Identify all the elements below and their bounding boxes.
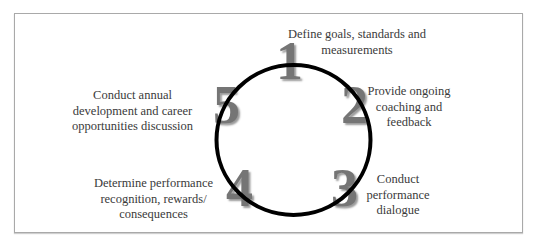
step-5-line-3: opportunities discussion bbox=[70, 119, 195, 135]
step-5-label: Conduct annual development and career op… bbox=[70, 88, 195, 135]
step-1-line-2: measurements bbox=[285, 43, 429, 59]
step-4-label: Determine performance recognition, rewar… bbox=[90, 176, 217, 223]
step-2-label: Provide ongoing coaching and feedback bbox=[362, 84, 456, 131]
step-4-line-3: consequences bbox=[90, 207, 217, 223]
step-5-line-1: Conduct annual bbox=[70, 88, 195, 104]
step-2-line-2: coaching and bbox=[362, 100, 456, 116]
step-3-label: Conduct performance dialogue bbox=[358, 172, 438, 219]
step-4-line-2: recognition, rewards/ bbox=[90, 192, 217, 208]
step-1-label: Define goals, standards and measurements bbox=[285, 27, 429, 58]
step-5-line-2: development and career bbox=[70, 104, 195, 120]
step-4-line-1: Determine performance bbox=[90, 176, 217, 192]
step-3-line-1: Conduct bbox=[358, 172, 438, 188]
step-3-line-2: performance bbox=[358, 188, 438, 204]
step-1-line-1: Define goals, standards and bbox=[285, 27, 429, 43]
step-2-line-1: Provide ongoing bbox=[362, 84, 456, 100]
step-3-line-3: dialogue bbox=[358, 203, 438, 219]
step-2-line-3: feedback bbox=[362, 115, 456, 131]
